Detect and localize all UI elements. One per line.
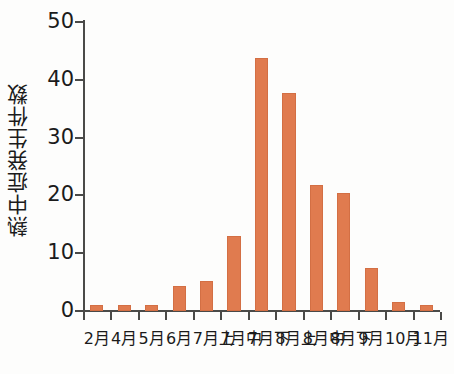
bar [337, 193, 350, 311]
x-axis-tick-mark [248, 312, 250, 320]
bar [392, 302, 405, 311]
bar [227, 236, 240, 311]
y-axis-tick-mark [75, 21, 83, 23]
y-axis-tick-label: 0 [28, 300, 74, 321]
bar [145, 305, 158, 311]
x-axis-tick-mark [330, 312, 332, 320]
x-axis-tick-mark [275, 312, 277, 320]
x-axis-tick-mark [110, 312, 112, 320]
x-axis-tick-mark [138, 312, 140, 320]
plot-area [83, 22, 440, 311]
bar [118, 305, 131, 311]
bar [282, 93, 295, 311]
y-axis-tick-label: 30 [28, 127, 74, 148]
x-axis-tick-mark [440, 312, 442, 320]
x-axis-tick-mark [358, 312, 360, 320]
x-axis-tick-mark [193, 312, 195, 320]
y-axis-tick-mark [75, 194, 83, 196]
x-axis-tick-mark [220, 312, 222, 320]
y-axis-tick-label: 50 [28, 11, 74, 32]
bar [200, 281, 213, 311]
x-axis-tick-labels: 2月4月5月6月7月上7月中7月下8月上8月中8月下9月10月11月 [83, 330, 440, 358]
x-axis-tick-mark [385, 312, 387, 320]
x-axis-tick-label: 2月 [83, 330, 110, 348]
y-axis-tick-label: 10 [28, 242, 74, 263]
x-axis-tick-label: 8月中 [303, 330, 330, 348]
bar [310, 185, 323, 311]
x-axis-tick-label: 7月上 [193, 330, 220, 348]
x-axis-tick-mark [413, 312, 415, 320]
x-axis-tick-label: 11月 [413, 330, 440, 348]
x-axis-tick-label: 10月 [385, 330, 412, 348]
bar [365, 268, 378, 311]
x-axis-tick-label: 7月中 [220, 330, 247, 348]
bar-chart-figure: 熱中症発生件数 01020304050 2月4月5月6月7月上7月中7月下8月上… [0, 0, 454, 374]
x-axis-tick-mark [165, 312, 167, 320]
x-axis-tick-label: 4月 [110, 330, 137, 348]
x-axis-tick-label: 6月 [165, 330, 192, 348]
y-axis-tick-mark [75, 137, 83, 139]
x-axis-tick-mark [303, 312, 305, 320]
x-axis-tick-label: 7月下 [248, 330, 275, 348]
y-axis-tick-label: 40 [28, 69, 74, 90]
bar [420, 305, 433, 311]
bar [90, 305, 103, 311]
x-axis-tick-label: 8月上 [275, 330, 302, 348]
bar [173, 286, 186, 311]
y-axis-tick-label: 20 [28, 184, 74, 205]
bar [255, 58, 268, 311]
y-axis-tick-mark [75, 310, 83, 312]
x-axis-tick-label: 8月下 [330, 330, 357, 348]
y-axis-tick-mark [75, 79, 83, 81]
x-axis-tick-label: 5月 [138, 330, 165, 348]
x-axis-tick-mark [83, 312, 85, 320]
y-axis-tick-mark [75, 252, 83, 254]
x-axis-tick-label: 9月 [358, 330, 385, 348]
y-axis-tick-labels: 01020304050 [18, 0, 74, 320]
